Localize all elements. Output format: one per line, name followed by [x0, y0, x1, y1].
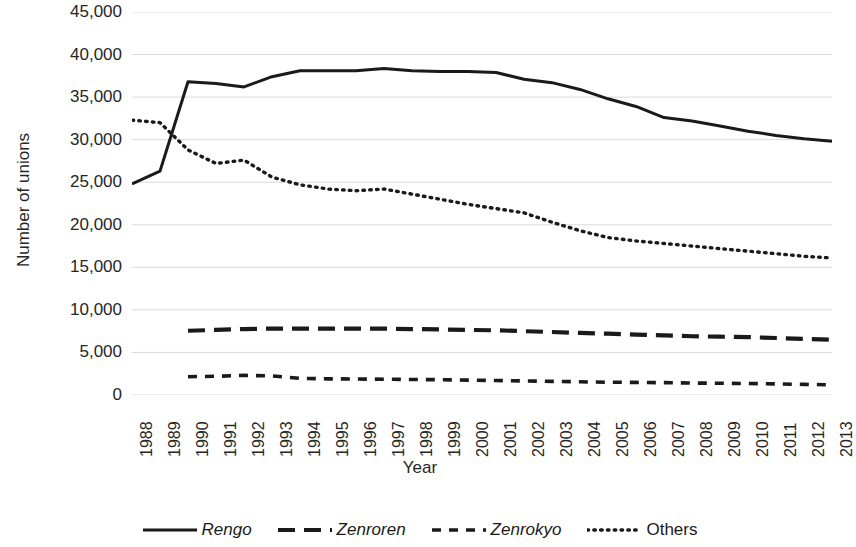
x-axis-tick-label: 2008 [698, 397, 716, 457]
legend-label: Others [646, 520, 697, 540]
legend-label: Zenroren [337, 520, 406, 540]
x-axis-tick-label: 1992 [250, 397, 268, 457]
x-axis-tick-label: 2005 [614, 397, 632, 457]
x-axis-tick-label: 1995 [334, 397, 352, 457]
x-axis-tick-label: 1994 [306, 397, 324, 457]
legend-item[interactable]: Others [587, 520, 697, 540]
x-axis-tick-label: 2001 [502, 397, 520, 457]
legend-item[interactable]: Zenrokyo [432, 520, 562, 540]
dotted-line-swatch [587, 523, 641, 537]
x-axis-tick-label: 1999 [446, 397, 464, 457]
y-axis-title: Number of unions [14, 110, 34, 290]
series-line [132, 120, 832, 258]
x-axis-tick-labels: 1988198919901991199219931994199519961997… [132, 399, 832, 461]
x-axis-tick-label: 2007 [670, 397, 688, 457]
x-axis-tick-label: 1988 [138, 397, 156, 457]
y-axis-tick-label: 5,000 [38, 342, 122, 362]
y-axis-tick-label: 35,000 [38, 87, 122, 107]
x-axis-tick-label: 1993 [278, 397, 296, 457]
y-axis-tick-label: 45,000 [38, 2, 122, 22]
y-axis-tick-label: 20,000 [38, 215, 122, 235]
x-axis-tick-label: 1990 [194, 397, 212, 457]
y-axis-tick-label: 30,000 [38, 130, 122, 150]
y-axis-tick-label: 0 [38, 385, 122, 405]
x-axis-tick-label: 2003 [558, 397, 576, 457]
legend-item[interactable]: Rengo [143, 520, 252, 540]
x-axis-tick-label: 2009 [726, 397, 744, 457]
y-axis-tick-label: 40,000 [38, 45, 122, 65]
legend-label: Rengo [202, 520, 252, 540]
x-axis-tick-label: 2000 [474, 397, 492, 457]
x-axis-tick-label: 1991 [222, 397, 240, 457]
plot-area [132, 12, 832, 395]
plot-svg [132, 12, 832, 395]
x-axis-tick-label: 2006 [642, 397, 660, 457]
x-axis-tick-label: 1989 [166, 397, 184, 457]
series-lines [132, 69, 832, 385]
x-axis-tick-label: 2002 [530, 397, 548, 457]
x-axis-tick-label: 2004 [586, 397, 604, 457]
series-line [132, 69, 832, 184]
x-axis-title: Year [0, 458, 840, 478]
x-axis-tick-label: 1998 [418, 397, 436, 457]
gridlines [132, 12, 832, 395]
x-axis-tick-label: 2010 [754, 397, 772, 457]
series-line [188, 375, 832, 384]
x-axis-tick-label: 1996 [362, 397, 380, 457]
y-axis-tick-label: 25,000 [38, 172, 122, 192]
long-dash-line-swatch [278, 523, 332, 537]
chart-legend: RengoZenrorenZenrokyoOthers [0, 513, 840, 547]
x-axis-tick-label: 2013 [838, 397, 856, 457]
x-axis-tick-label: 2012 [810, 397, 828, 457]
x-axis-tick-label: 1997 [390, 397, 408, 457]
y-axis-tick-label: 10,000 [38, 300, 122, 320]
legend-item[interactable]: Zenroren [278, 520, 406, 540]
short-dash-line-swatch [432, 523, 486, 537]
x-axis-tick-label: 2011 [782, 397, 800, 457]
legend-label: Zenrokyo [491, 520, 562, 540]
series-line [188, 329, 832, 340]
solid-line-swatch [143, 523, 197, 537]
y-axis-tick-label: 15,000 [38, 257, 122, 277]
